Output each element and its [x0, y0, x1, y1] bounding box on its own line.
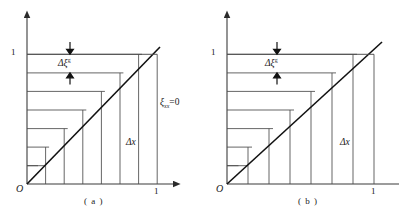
- panel-a-spacing-sup: g: [68, 57, 71, 63]
- panel-a-cell-text: Δx: [126, 137, 136, 147]
- panel-b-caption: ( b ): [298, 196, 318, 206]
- panel-b-y-tick-label: 1: [211, 48, 216, 57]
- panel-a-origin-label: O: [16, 184, 23, 194]
- panel-a-condition-value: =0: [169, 97, 179, 107]
- figure-root: 1 1 O Δξg Δx ξxx=0 ( a ): [0, 0, 399, 216]
- panel-b-diagonal: [227, 42, 382, 184]
- panel-a: 1 1 O Δξg Δx ξxx=0 ( a ): [0, 0, 200, 216]
- panel-a-spacing-label: Δξg: [58, 58, 71, 69]
- panel-b-axes: [227, 17, 399, 184]
- panel-a-condition-label: ξxx=0: [160, 98, 179, 110]
- panel-b-cell-text: Δx: [340, 137, 350, 147]
- panel-b-horizontal-gridlines: [227, 54, 357, 165]
- panel-a-caption: ( a ): [84, 196, 104, 206]
- panel-b: 1 1 O Δξg Δx ( b ): [200, 0, 399, 216]
- panel-a-diagonal: [27, 47, 160, 184]
- panel-b-drawing: [200, 0, 399, 216]
- panel-b-origin-label: O: [216, 184, 223, 194]
- panel-a-y-tick-label: 1: [11, 48, 16, 57]
- panel-b-cell-label: Δx: [340, 138, 350, 148]
- panel-a-spacing-text: Δξ: [58, 58, 68, 68]
- panel-a-horizontal-gridlines: [27, 54, 142, 165]
- panel-a-axes: [27, 17, 174, 184]
- panel-a-cell-label: Δx: [126, 138, 136, 148]
- panel-a-x-tick-label: 1: [154, 187, 159, 196]
- panel-b-spacing-sup: g: [275, 57, 278, 63]
- panel-a-vertical-gridlines: [46, 54, 158, 184]
- panel-b-x-tick-label: 1: [371, 187, 376, 196]
- panel-b-vertical-gridlines: [248, 54, 374, 184]
- panel-b-spacing-label: Δξg: [265, 58, 278, 69]
- panel-b-spacing-text: Δξ: [265, 58, 275, 68]
